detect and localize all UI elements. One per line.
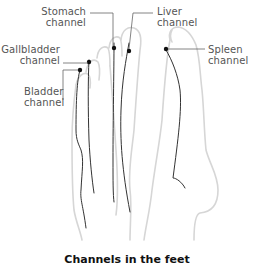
liver-point <box>127 49 131 53</box>
gallbladder-label-line1: Gallbladder <box>0 44 60 55</box>
gallbladder-label: Gallbladder channel <box>0 44 60 66</box>
spleen-label: Spleen channel <box>208 44 254 66</box>
gallbladder-label-line2: channel <box>0 55 60 66</box>
spleen-label-line1: Spleen <box>208 44 254 55</box>
liver-label: Liver channel <box>157 6 207 28</box>
spleen-point <box>164 47 168 51</box>
bladder-label: Bladder channel <box>24 86 64 108</box>
bladder-label-line1: Bladder <box>24 86 64 97</box>
stomach-label: Stomach channel <box>36 6 86 28</box>
gallbladder-channel-line <box>88 60 94 193</box>
stomach-point <box>112 46 116 50</box>
acupoints <box>78 46 168 72</box>
liver-label-line1: Liver <box>157 6 207 17</box>
spleen-channel-line <box>166 50 185 188</box>
bladder-channel-line <box>76 70 86 228</box>
bladder-point <box>78 68 82 72</box>
foot-outline <box>72 27 218 240</box>
stomach-label-line1: Stomach <box>36 6 86 17</box>
gallbladder-point <box>87 60 91 64</box>
bladder-label-line2: channel <box>24 97 64 108</box>
stomach-leader <box>90 13 113 46</box>
liver-label-line2: channel <box>157 17 207 28</box>
stomach-label-line2: channel <box>36 17 86 28</box>
liver-channel-line <box>121 43 130 212</box>
figure-caption: Channels in the feet <box>0 253 254 266</box>
spleen-label-line2: channel <box>208 55 254 66</box>
